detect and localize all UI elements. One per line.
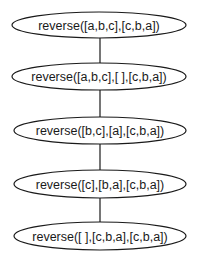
- derivation-diagram: reverse([a,b,c],[c,b,a]) reverse([a,b,c]…: [0, 0, 198, 256]
- node-3-label: reverse([b,c],[a],[c,b,a]): [36, 124, 165, 138]
- node-2-label: reverse([a,b,c],[ ],[c,b,a]): [31, 70, 166, 84]
- node-4: reverse([c],[b,a],[c,b,a]): [14, 170, 186, 198]
- node-3: reverse([b,c],[a],[c,b,a]): [14, 117, 186, 144]
- node-2: reverse([a,b,c],[ ],[c,b,a]): [12, 63, 186, 90]
- node-1: reverse([a,b,c],[c,b,a]): [12, 12, 186, 38]
- node-5-label: reverse([ ],[c,b,a],[c,b,a]): [32, 230, 167, 244]
- node-1-label: reverse([a,b,c],[c,b,a]): [38, 19, 160, 33]
- node-4-label: reverse([c],[b,a],[c,b,a]): [36, 178, 165, 192]
- node-5: reverse([ ],[c,b,a],[c,b,a]): [14, 222, 186, 250]
